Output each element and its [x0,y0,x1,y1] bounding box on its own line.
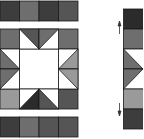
side-strip [124,9,144,129]
quilt-diagram-svg [0,0,143,139]
arrow-down-icon [118,103,121,116]
bottom-border-strip [0,117,78,137]
top-border-strip [0,1,78,21]
star-block [0,29,78,109]
arrow-up-icon [118,21,121,34]
quilt-diagram [0,0,143,139]
